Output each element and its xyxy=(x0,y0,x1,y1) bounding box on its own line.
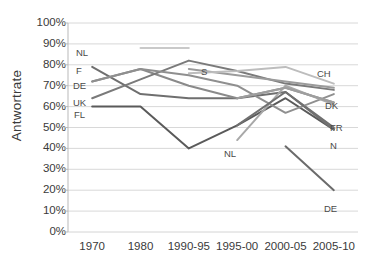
series-line-f xyxy=(92,67,334,128)
plot-area xyxy=(0,0,372,265)
series-label-nl: NL xyxy=(76,48,88,58)
series-label-de: DE xyxy=(73,81,86,91)
gridlines xyxy=(68,23,358,232)
series-line-de-2 xyxy=(286,146,334,190)
series-line-ch xyxy=(189,67,334,84)
series-label-nl: NL xyxy=(224,149,236,159)
series-label-fl: FL xyxy=(74,110,85,120)
series-line-fl xyxy=(92,98,334,148)
series-label-f: F xyxy=(76,66,82,76)
series-label-uk: UK xyxy=(73,98,86,108)
line-chart: Antwortrate 100%90%80%70%60%50%40%30%20%… xyxy=(0,0,372,265)
x-axis-tick-label: 2005-10 xyxy=(304,240,364,252)
series-label-de: DE xyxy=(324,204,337,214)
axis-lines xyxy=(64,23,68,232)
series-label-fr: FR xyxy=(330,123,343,133)
series-label-n: N xyxy=(330,141,337,151)
series-label-s: S xyxy=(201,67,207,77)
series-label-ch: CH xyxy=(317,69,331,79)
series-label-dk: DK xyxy=(325,101,338,111)
